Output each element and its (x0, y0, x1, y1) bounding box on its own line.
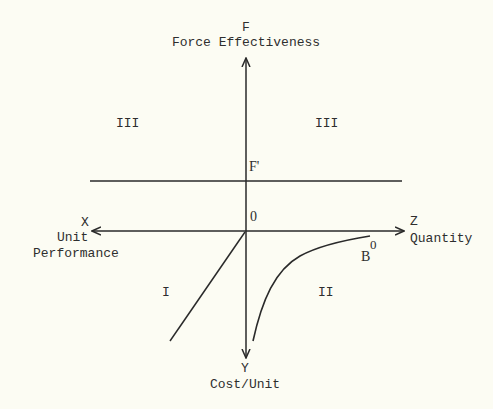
axis-x-label-line2: Performance (33, 247, 119, 261)
quadrant-upper-left-label: III (116, 117, 139, 131)
curve-end-superscript: 0 (370, 238, 377, 252)
quadrant-i-line (170, 232, 245, 341)
quadrant-ii-curve (253, 236, 370, 341)
origin-label: 0 (250, 210, 257, 224)
f-prime-label: F' (249, 160, 259, 174)
curve-end-label: B (361, 250, 370, 264)
axis-y-letter: Y (241, 362, 249, 376)
axis-x-label-line1: Unit (57, 231, 88, 245)
quadrant-lower-left-label: I (162, 286, 170, 300)
quadrant-lower-right-label: II (318, 286, 334, 300)
axis-x-letter: X (81, 216, 89, 230)
quadrant-upper-right-label: III (315, 117, 338, 131)
axis-z-letter: Z (410, 215, 418, 229)
axis-y-label: Cost/Unit (210, 378, 280, 392)
diagram-canvas (0, 0, 493, 409)
axis-f-letter: F (242, 21, 250, 35)
axis-f-label: Force Effectiveness (172, 36, 320, 50)
axis-z-label: Quantity (410, 232, 472, 246)
